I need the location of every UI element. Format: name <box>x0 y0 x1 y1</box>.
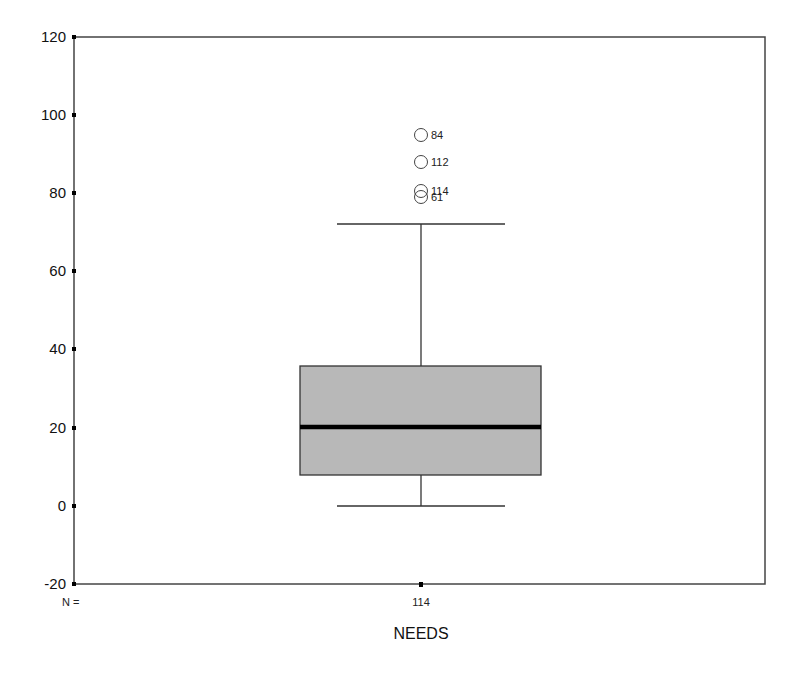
iqr-box <box>300 366 541 475</box>
y-tick <box>72 113 76 117</box>
y-tick <box>72 504 76 508</box>
y-tick <box>72 582 76 586</box>
outlier-label: 84 <box>431 129 443 141</box>
x-axis-title: NEEDS <box>393 625 448 642</box>
y-tick-label: -20 <box>44 575 66 592</box>
n-label: N = <box>62 596 79 608</box>
plot-frame <box>74 37 765 584</box>
n-value: 114 <box>412 596 430 608</box>
outlier-marker <box>415 129 428 142</box>
y-tick-label: 100 <box>41 106 66 123</box>
y-tick <box>72 347 76 351</box>
y-tick <box>72 426 76 430</box>
y-tick-label: 60 <box>49 262 66 279</box>
outlier-label: 112 <box>431 156 449 168</box>
y-axis: 120 100 80 60 40 20 0 -20 <box>41 28 76 592</box>
y-tick-label: 20 <box>49 419 66 436</box>
y-tick <box>72 269 76 273</box>
y-tick-label: 40 <box>49 340 66 357</box>
y-tick-label: 120 <box>41 28 66 45</box>
outlier-label: 61 <box>431 191 443 203</box>
y-tick-label: 80 <box>49 184 66 201</box>
y-tick <box>72 35 76 39</box>
outliers: 84 112 114 61 <box>415 129 449 204</box>
y-tick-label: 0 <box>58 497 66 514</box>
box-needs <box>300 224 541 506</box>
y-tick <box>72 191 76 195</box>
outlier-marker <box>415 156 428 169</box>
boxplot-chart: 120 100 80 60 40 20 0 -20 84 112 114 61 … <box>0 0 795 673</box>
x-tick <box>419 582 423 587</box>
